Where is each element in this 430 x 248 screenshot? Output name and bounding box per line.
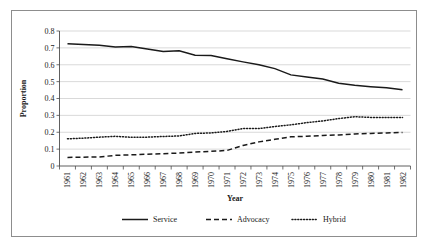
x-tick-label: 1969 <box>191 172 200 188</box>
x-tick-label: 1971 <box>223 172 232 188</box>
chart-figure: 0.80.70.60.50.40.30.20.10 19611962196319… <box>0 0 430 248</box>
y-tick-label: 0.7 <box>45 44 55 53</box>
x-tick-label: 1965 <box>127 172 136 188</box>
y-tick-label: 0.1 <box>45 145 55 154</box>
x-tick-label: 1974 <box>271 172 280 188</box>
y-axis-title: Proportion <box>19 79 28 117</box>
x-tick-label: 1970 <box>207 172 216 188</box>
x-tick-label: 1962 <box>79 172 88 188</box>
x-tick-label: 1978 <box>335 172 344 188</box>
x-tick-label: 1964 <box>111 172 120 188</box>
x-tick-label: 1961 <box>63 172 72 188</box>
x-tick-label: 1980 <box>367 172 376 188</box>
x-axis-title: Year <box>227 194 243 203</box>
x-tick-label: 1968 <box>175 172 184 188</box>
x-tick-label: 1982 <box>399 172 408 188</box>
y-tick-label: 0.5 <box>45 78 55 87</box>
x-tick-label: 1973 <box>255 172 264 188</box>
x-tick-label: 1981 <box>383 172 392 188</box>
y-tick-label: 0.8 <box>45 27 55 36</box>
legend: ServiceAdvocacyHybrid <box>122 215 346 224</box>
legend-label-hybrid: Hybrid <box>323 215 346 224</box>
y-tick-label: 0.2 <box>45 128 55 137</box>
legend-label-service: Service <box>153 215 177 224</box>
legend-label-advocacy: Advocacy <box>237 215 269 224</box>
y-tick-label: 0 <box>51 162 55 171</box>
x-tick-label: 1972 <box>239 172 248 188</box>
y-tick-label: 0.6 <box>45 61 55 70</box>
series-group <box>67 44 402 158</box>
x-tick-label: 1967 <box>159 172 168 188</box>
line-chart: 0.80.70.60.50.40.30.20.10 19611962196319… <box>0 0 430 248</box>
x-tick-label: 1966 <box>143 172 152 188</box>
series-line-service <box>67 44 402 90</box>
x-tick-label: 1976 <box>303 172 312 188</box>
gridline-group <box>60 31 411 149</box>
x-tick-label: 1979 <box>351 172 360 188</box>
x-tick-group: 1961196219631964196519661967196819691970… <box>60 166 411 188</box>
y-tick-group: 0.80.70.60.50.40.30.20.10 <box>45 27 60 171</box>
x-tick-label: 1975 <box>287 172 296 188</box>
y-tick-label: 0.3 <box>45 111 55 120</box>
x-tick-label: 1977 <box>319 172 328 188</box>
series-line-hybrid <box>67 117 402 139</box>
y-tick-label: 0.4 <box>45 94 55 103</box>
x-tick-label: 1963 <box>95 172 104 188</box>
